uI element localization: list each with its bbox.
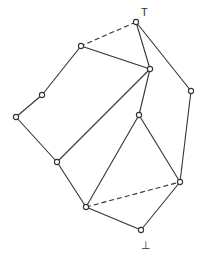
node-top <box>133 19 138 24</box>
top-label: T <box>141 6 148 18</box>
edge-i-h <box>86 182 180 207</box>
node-bottom <box>138 227 143 232</box>
node-b <box>147 66 152 71</box>
edge-a-b <box>81 46 150 69</box>
edge-f-i <box>86 115 139 207</box>
node-g <box>54 159 59 164</box>
edge-top-c <box>136 22 191 91</box>
node-e <box>13 114 18 119</box>
edge-bottom-h <box>141 182 180 230</box>
edge-e-g <box>16 117 57 162</box>
edges-group <box>16 22 191 230</box>
edge-g-i <box>57 162 86 207</box>
lattice-diagram: T ⊥ <box>0 0 203 263</box>
node-f <box>136 112 141 117</box>
node-a <box>78 43 83 48</box>
bottom-label: ⊥ <box>141 239 151 251</box>
edge-f-h <box>139 115 180 182</box>
edge-d-e <box>16 95 42 117</box>
edge-top-b <box>136 22 150 69</box>
edge-c-h <box>180 91 191 182</box>
node-h <box>177 179 182 184</box>
node-c <box>188 88 193 93</box>
edge-b-f <box>139 69 150 115</box>
node-d <box>39 92 44 97</box>
edge-top-a <box>81 22 136 46</box>
node-i <box>83 204 88 209</box>
edge-i-bottom <box>86 207 141 230</box>
nodes-group <box>13 19 193 232</box>
edge-a-d <box>42 46 81 95</box>
